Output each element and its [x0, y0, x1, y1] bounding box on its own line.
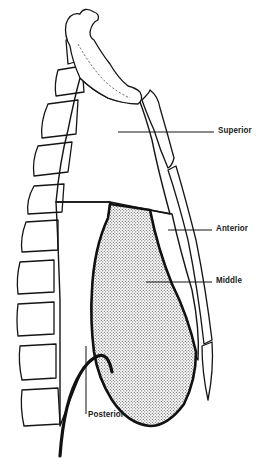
vertebral-column [17, 36, 84, 426]
label-posterior: Posterior [88, 409, 124, 419]
region-middle [91, 204, 196, 426]
label-superior: Superior [218, 125, 252, 135]
label-middle: Middle [216, 275, 242, 285]
label-anterior: Anterior [216, 223, 248, 233]
